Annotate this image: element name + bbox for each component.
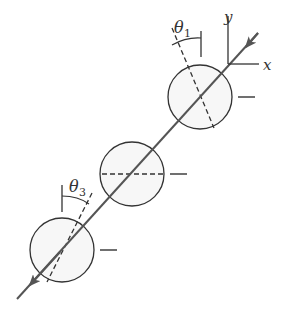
middle-circle — [100, 142, 187, 206]
theta1-subscript: 1 — [184, 27, 191, 40]
diagram-canvas: y x θ 1 θ 3 — [0, 0, 290, 309]
top-circle — [168, 28, 255, 129]
top-arrow — [246, 33, 258, 47]
theta3-symbol: θ — [69, 177, 79, 196]
coordinate-axes: y x — [223, 8, 272, 74]
y-axis-label: y — [223, 8, 233, 26]
x-axis-label: x — [263, 56, 272, 74]
theta3-angle: θ 3 — [62, 177, 89, 212]
theta3-subscript: 3 — [79, 186, 86, 199]
theta1-symbol: θ — [174, 18, 184, 37]
